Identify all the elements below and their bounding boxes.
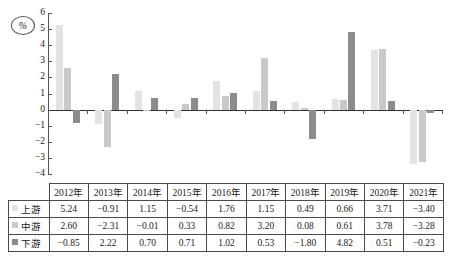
y-tick-label: −2 [35,135,45,148]
table-header-cell: 2019年 [325,184,364,201]
table-cell: 3.71 [365,201,404,218]
bar [253,91,260,110]
y-tick-label: −4 [35,167,45,180]
table-header-cell: 2015年 [167,184,206,201]
y-tick-label: 4 [40,38,45,51]
table-cell: −1.80 [286,235,325,252]
bar [410,110,417,165]
y-tick: −3 [48,158,52,159]
table-header-cell: 2016年 [207,184,246,201]
bar [182,104,189,109]
table-header-cell: 2020年 [365,184,404,201]
x-tick [206,110,207,114]
x-tick [284,110,285,114]
table-cell: 0.71 [167,235,206,252]
table-cell: 0.08 [286,218,325,235]
y-tick: −1 [48,126,52,127]
x-tick [245,110,246,114]
bar [73,110,80,124]
legend-label: 上游 [21,205,41,215]
y-tick-label: −1 [35,119,45,132]
y-tick-label: 5 [40,22,45,35]
table-header-cell: 2018年 [286,184,325,201]
series-legend-下游: 下游 [9,235,50,252]
y-tick-label: 1 [40,87,45,100]
table-cell: 0.51 [365,235,404,252]
table-cell: 0.53 [246,235,285,252]
bar [348,32,355,110]
table-cell: 1.15 [128,201,167,218]
bar [332,99,339,110]
unit-label-text: % [19,20,27,31]
bar [427,110,434,114]
x-tick [48,110,49,114]
table-cell: 0.61 [325,218,364,235]
y-tick: 1 [48,94,52,95]
table-cell: 0.66 [325,201,364,218]
bar [301,108,308,109]
y-axis-unit-label: % [10,14,36,36]
y-tick: 2 [48,77,52,78]
x-tick [127,110,128,114]
bar [419,110,426,163]
bar [379,49,386,110]
y-tick-label: 6 [40,6,45,19]
y-tick: −2 [48,142,52,143]
data-table: 2012年2013年2014年2015年2016年2017年2018年2019年… [8,183,444,252]
bar [112,74,119,110]
table-row: 下游−0.852.220.700.711.020.53−1.804.820.51… [9,235,444,252]
bar [261,58,268,110]
x-tick [403,110,404,114]
bar [213,81,220,109]
legend-swatch-icon [12,205,18,211]
table-cell: 3.20 [246,218,285,235]
bar [56,25,63,109]
table-cell: −3.40 [404,201,444,218]
legend-label: 中游 [21,222,41,232]
table-cell: −0.85 [49,235,88,252]
bar [64,68,71,110]
y-tick: 5 [48,29,52,30]
x-tick [363,110,364,114]
table-header-cell: 2013年 [88,184,127,201]
bar [270,101,277,110]
x-tick [87,110,88,114]
bar [151,98,158,109]
y-tick-label: 3 [40,54,45,67]
y-tick: 6 [48,13,52,14]
table-header-row: 2012年2013年2014年2015年2016年2017年2018年2019年… [9,184,444,201]
table-header-cell: 2021年 [404,184,444,201]
bar [135,91,142,110]
y-tick: 3 [48,61,52,62]
table-cell: 0.33 [167,218,206,235]
table-header-cell: 2014年 [128,184,167,201]
table-cell: 0.49 [286,201,325,218]
table-cell: 1.02 [207,235,246,252]
bar [104,110,111,147]
data-table-wrapper: 2012年2013年2014年2015年2016年2017年2018年2019年… [8,183,444,252]
chart-area: % 6543210−1−2−3−4 [0,0,452,180]
table-cell: 0.70 [128,235,167,252]
table-cell: 2.22 [88,235,127,252]
table-cell: −0.54 [167,201,206,218]
y-tick: −4 [48,174,52,175]
table-header-cell: 2012年 [49,184,88,201]
table-cell: −0.01 [128,218,167,235]
x-tick [166,110,167,114]
bar [388,101,395,109]
table-cell: 2.60 [49,218,88,235]
table-cell: 0.82 [207,218,246,235]
series-legend-中游: 中游 [9,218,50,235]
table-body: 上游5.24−0.911.15−0.541.761.150.490.663.71… [9,201,444,252]
bar [292,102,299,110]
table-cell: 4.82 [325,235,364,252]
table-header-cell: 2017年 [246,184,285,201]
series-legend-上游: 上游 [9,201,50,218]
bar [340,100,347,110]
bar [222,96,229,109]
y-tick-label: −3 [35,151,45,164]
y-tick-label: 2 [40,70,45,83]
table-row: 上游5.24−0.911.15−0.541.761.150.490.663.71… [9,201,444,218]
table-cell: −0.23 [404,235,444,252]
legend-swatch-icon [12,222,18,228]
